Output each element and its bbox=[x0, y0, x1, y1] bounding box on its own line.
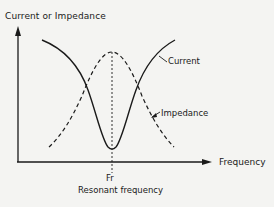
impedance-label: Impedance bbox=[161, 109, 208, 118]
current-curve bbox=[42, 40, 175, 149]
x-axis-arrowhead-icon bbox=[202, 159, 212, 165]
impedance-leader-arrow-icon bbox=[151, 113, 157, 118]
current-label: Current bbox=[168, 57, 200, 66]
resonant-frequency-symbol: Fr bbox=[106, 174, 114, 183]
impedance-curve bbox=[49, 52, 174, 147]
y-axis-arrowhead-icon bbox=[15, 26, 21, 36]
diagram-graphics bbox=[0, 0, 274, 207]
current-leader bbox=[159, 56, 167, 62]
resonant-frequency-label: Resonant frequency bbox=[78, 186, 163, 195]
x-axis-label: Frequency bbox=[219, 158, 266, 167]
y-axis-label: Current or Impedance bbox=[5, 12, 106, 21]
resonance-diagram: Current or Impedance Frequency Current I… bbox=[0, 0, 274, 207]
